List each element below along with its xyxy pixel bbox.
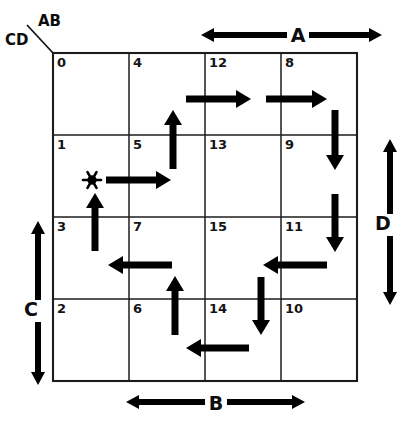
cell-label-1: 1 [57,137,66,152]
transition-11-to-15 [263,256,327,274]
kmap-figure: ABCD 0412815139371511261410 ABCD [0,0,417,433]
transition-4-to-12 [186,90,251,108]
transition-9-to-11 [326,194,344,252]
transition-arrowhead [108,256,123,274]
transition-8-to-9 [326,110,344,170]
transition-15-to-14 [252,277,270,335]
span-head-start [31,221,45,234]
span-head-end [383,292,397,305]
transition-14-to-6 [186,339,249,357]
variable-span-C: C [24,221,45,385]
span-head-end [369,28,382,42]
transition-arrowhead [312,90,327,108]
transition-arrowhead [326,155,344,170]
kmap-corner-labels: ABCD [5,12,61,53]
transition-5-to-4 [164,110,182,169]
transition-arrowhead [252,320,270,335]
cell-label-3: 3 [57,219,66,234]
cell-label-12: 12 [209,55,227,70]
transition-1-to-5 [106,171,171,189]
transition-arrowhead [236,90,251,108]
span-head-start [126,395,139,409]
start-asterisk-icon [83,172,101,188]
transition-arrowhead [186,339,201,357]
transition-arrowhead [263,256,278,274]
span-head-end [292,395,305,409]
cell-label-11: 11 [285,219,303,234]
transition-arrowhead [86,193,104,208]
cell-label-14: 14 [209,301,227,316]
variable-span-D: D [375,139,397,305]
variable-label-B: B [209,392,223,414]
transition-arrowhead [164,110,182,125]
cell-label-8: 8 [285,55,294,70]
cell-label-2: 2 [57,301,66,316]
cell-label-0: 0 [57,55,66,70]
corner-label-cd: CD [5,31,28,49]
transition-6-to-7 [166,276,184,335]
variable-label-A: A [291,24,306,46]
transition-arrowhead [326,237,344,252]
variable-span-A: A [201,24,382,46]
span-head-start [383,139,397,152]
variable-label-D: D [375,212,391,234]
cell-label-13: 13 [209,137,227,152]
transition-arrowhead [156,171,171,189]
transition-7-to-3 [108,256,172,274]
cell-label-4: 4 [133,55,142,70]
span-head-end [31,372,45,385]
cell-label-7: 7 [133,219,142,234]
span-head-start [201,28,214,42]
variable-label-C: C [24,298,38,320]
corner-label-ab: AB [38,12,61,30]
kmap-canvas: ABCD 0412815139371511261410 ABCD [0,0,417,433]
transition-12-to-8 [266,90,327,108]
cell-label-6: 6 [133,301,142,316]
cell-label-10: 10 [285,301,303,316]
cell-label-15: 15 [209,219,227,234]
variable-span-B: B [126,392,305,414]
cell-label-5: 5 [133,137,142,152]
start-marker-group [83,172,101,188]
transition-arrowhead [166,276,184,291]
asterisk-center [89,177,96,184]
transition-3-to-1 [86,193,104,251]
cell-label-9: 9 [285,137,294,152]
